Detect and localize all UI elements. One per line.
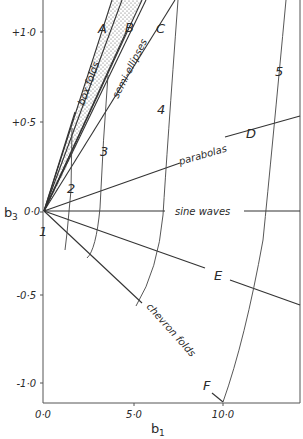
contour-numbers: 1 2 3 4 5 bbox=[39, 64, 283, 239]
radial-lines bbox=[44, 0, 300, 402]
label-5: 5 bbox=[275, 64, 283, 79]
label-C: C bbox=[156, 21, 166, 36]
fold-shape-chart: +1·0 +0·5 0·0 -0·5 -1·0 0·0 5·0 10·0 b 1… bbox=[0, 0, 303, 439]
annotation-chevron-folds: chevron folds bbox=[145, 301, 198, 359]
label-4: 4 bbox=[157, 102, 165, 117]
y-tick-label: +1·0 bbox=[12, 27, 36, 38]
label-2: 2 bbox=[67, 181, 75, 196]
line-F bbox=[212, 393, 223, 402]
x-axis-title: b 1 bbox=[151, 421, 165, 438]
label-D: D bbox=[246, 126, 256, 141]
line-chevron bbox=[44, 211, 142, 303]
line-E-right bbox=[230, 280, 300, 305]
label-1: 1 bbox=[39, 224, 47, 239]
label-A: A bbox=[97, 21, 107, 36]
label-E: E bbox=[214, 268, 223, 283]
y-tick-label: -1·0 bbox=[16, 378, 36, 389]
axes bbox=[40, 0, 300, 406]
annotation-sine-waves: sine waves bbox=[175, 206, 230, 217]
line-D bbox=[225, 116, 300, 137]
y-tick-label: -0·5 bbox=[16, 290, 36, 301]
y-tick-label: +0·5 bbox=[12, 117, 36, 128]
label-3: 3 bbox=[100, 144, 108, 159]
annotation-parabolas: parabolas bbox=[177, 143, 228, 167]
contour-5 bbox=[223, 0, 286, 402]
y-tick-label: 0·0 bbox=[24, 206, 40, 217]
label-F: F bbox=[203, 378, 211, 393]
x-tick-labels: 0·0 5·0 10·0 bbox=[35, 409, 234, 420]
x-tick-label: 5·0 bbox=[126, 409, 142, 420]
y-tick-labels: +1·0 +0·5 0·0 -0·5 -1·0 bbox=[12, 27, 40, 389]
x-tick-label: 10·0 bbox=[212, 409, 234, 420]
svg-text:1: 1 bbox=[159, 428, 165, 438]
x-tick-label: 0·0 bbox=[35, 409, 51, 420]
svg-text:3: 3 bbox=[12, 212, 18, 222]
label-B: B bbox=[125, 20, 134, 35]
y-axis-title: b 3 bbox=[4, 205, 18, 222]
